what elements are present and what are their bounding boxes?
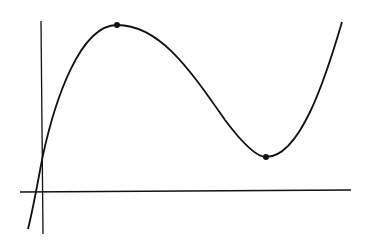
function-graph	[0, 0, 371, 241]
critical-points	[114, 22, 269, 160]
local-minimum-point	[263, 154, 269, 160]
x-axis	[20, 190, 351, 192]
cubic-curve	[28, 22, 342, 229]
local-maximum-point	[114, 22, 120, 28]
y-axis	[41, 21, 43, 234]
